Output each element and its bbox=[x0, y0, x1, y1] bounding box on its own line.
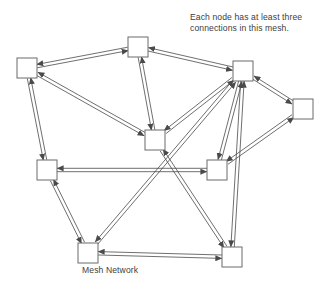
mesh-node-n3[interactable] bbox=[233, 61, 253, 81]
mesh-edge bbox=[38, 72, 146, 133]
mesh-graph-canvas bbox=[0, 0, 325, 292]
annotation-line-2: connections in this mesh. bbox=[190, 23, 302, 34]
mesh-node-n7[interactable] bbox=[37, 160, 57, 180]
mesh-edge bbox=[31, 78, 47, 160]
mesh-edge bbox=[27, 78, 43, 160]
mesh-edge bbox=[148, 48, 233, 67]
mesh-edge bbox=[164, 78, 232, 131]
mesh-edge bbox=[148, 51, 233, 70]
mesh-node-n4[interactable] bbox=[293, 99, 313, 119]
mesh-edge bbox=[37, 51, 128, 68]
mesh-edge bbox=[36, 75, 144, 136]
mesh-node-n6[interactable] bbox=[207, 160, 227, 180]
mesh-edge bbox=[218, 81, 239, 160]
mesh-edge bbox=[53, 179, 84, 242]
mesh-edge bbox=[98, 252, 222, 255]
mesh-node-n1[interactable] bbox=[17, 58, 37, 78]
annotation-line-1: Each node has at least three bbox=[190, 12, 302, 23]
mesh-edge bbox=[138, 57, 151, 130]
mesh-edge bbox=[50, 181, 81, 244]
mesh-edge bbox=[166, 80, 234, 133]
mesh-node-n2[interactable] bbox=[128, 37, 148, 57]
edge-layer bbox=[27, 47, 294, 258]
mesh-node-n8[interactable] bbox=[78, 243, 98, 263]
mesh-edge bbox=[226, 115, 292, 162]
annotation-note: Each node has at least three connections… bbox=[190, 12, 302, 34]
mesh-edge bbox=[221, 81, 242, 160]
mesh-edge bbox=[98, 255, 222, 258]
mesh-node-n5[interactable] bbox=[145, 130, 165, 150]
mesh-edge bbox=[252, 79, 292, 104]
mesh-network-diagram: Each node has at least three connections… bbox=[0, 0, 325, 292]
mesh-node-n9[interactable] bbox=[222, 247, 242, 267]
diagram-caption: Mesh Network bbox=[82, 265, 138, 276]
mesh-edge bbox=[254, 76, 294, 101]
mesh-edge bbox=[37, 47, 128, 64]
mesh-edge bbox=[142, 57, 155, 130]
